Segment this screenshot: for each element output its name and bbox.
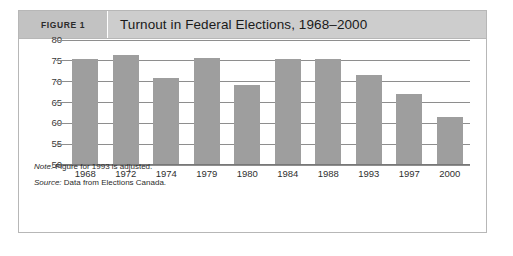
x-axis-tick-label: 1997 [389,169,430,179]
figure-title: Turnout in Federal Elections, 1968–2000 [108,11,486,38]
chart-bar [72,59,98,164]
chart-bar [275,59,301,164]
x-axis-tick-label: 1979 [187,169,228,179]
chart-bar [396,94,422,164]
chart-bar [194,58,220,165]
figure-header: FIGURE 1 Turnout in Federal Elections, 1… [19,11,486,39]
y-axis-tick [56,102,65,103]
y-axis: 50556065707580 [34,40,62,232]
y-axis-tick [56,123,65,124]
y-axis-tick [56,40,65,41]
note-text: Figure for 1993 is adjusted. [53,162,152,171]
x-axis-tick-label: 1988 [308,169,349,179]
figure-number-label: FIGURE 1 [19,11,108,38]
chart-plot-region: 50556065707580 1968197219741979198019841… [19,40,486,232]
chart-bar [113,55,139,164]
y-axis-tick [56,60,65,61]
chart-canvas [65,40,470,165]
x-axis-tick-label: 1993 [349,169,390,179]
source-text: Data from Elections Canada. [62,178,167,187]
x-axis-tick-label: 1984 [268,169,309,179]
figure-footnotes: Note: Figure for 1993 is adjusted. Sourc… [34,163,166,195]
figure-box: FIGURE 1 Turnout in Federal Elections, 1… [18,10,487,233]
note-lead: Note: [34,162,53,171]
x-axis-tick-label: 1980 [227,169,268,179]
y-axis-tick [56,81,65,82]
figure-source: Source: Data from Elections Canada. [34,179,166,188]
figure-note: Note: Figure for 1993 is adjusted. [34,163,166,172]
gridline [65,40,470,41]
chart-bar [315,59,341,164]
chart-bar [356,75,382,164]
chart-bar [153,78,179,165]
y-axis-tick [56,144,65,145]
chart-bar [234,85,260,164]
source-lead: Source: [34,178,62,187]
x-axis-tick-label: 2000 [430,169,471,179]
chart-bar [437,117,463,164]
